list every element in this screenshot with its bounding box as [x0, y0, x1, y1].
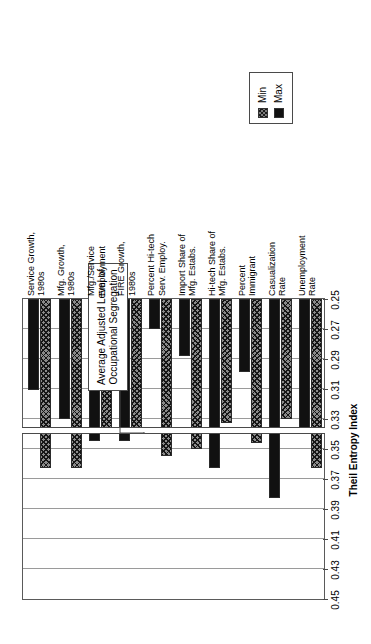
plot-area	[22, 298, 325, 600]
axis-tick	[323, 539, 328, 540]
bar-min	[281, 299, 292, 419]
category-label: Casualization Rate	[267, 146, 288, 296]
legend-label-max: Max	[274, 84, 284, 103]
axis-tick	[323, 449, 328, 450]
bar-group	[23, 299, 53, 599]
axis-tick-label: 0.33	[330, 410, 341, 429]
axis-title: Theil Entropy Index	[348, 300, 359, 600]
bar-min	[221, 299, 232, 424]
bar-max	[149, 299, 160, 329]
category-label: Mfg./Service Employment	[86, 146, 107, 296]
category-label: FIRE Growth, 1980s	[116, 146, 137, 296]
legend-swatch-min-icon	[258, 108, 268, 118]
axis-tick-label: 0.29	[330, 350, 341, 369]
bar-min	[251, 299, 262, 443]
axis-tick	[323, 359, 328, 360]
category-label: Hi-tech Share of Mfg. Estabs.	[207, 146, 228, 296]
bar-group	[294, 299, 324, 599]
legend-label-min: Min	[258, 87, 268, 103]
bar-min	[71, 299, 82, 469]
category-label: Mfg. Growth, 1980s	[56, 146, 77, 296]
bar-max	[239, 299, 250, 373]
bar-min	[311, 299, 322, 469]
bar-group	[53, 299, 83, 599]
axis-tick	[323, 329, 328, 330]
category-label: Percent Immigrant	[237, 146, 258, 296]
axis-tick-label: 0.27	[330, 320, 341, 339]
bar-group	[204, 299, 234, 599]
chart-legend: Min Max	[249, 72, 293, 124]
category-label: Unemployment Rate	[297, 146, 318, 296]
bar-group	[174, 299, 204, 599]
axis-tick	[323, 479, 328, 480]
axis-tick-label: 0.41	[330, 530, 341, 549]
axis-tick-label: 0.39	[330, 500, 341, 519]
average-reference-line	[22, 427, 325, 434]
axis-tick	[323, 509, 328, 510]
legend-swatch-max-icon	[274, 108, 284, 118]
bar-min	[131, 299, 142, 433]
axis-tick-label: 0.25	[330, 290, 341, 309]
bar-max	[28, 299, 39, 391]
bar-max	[269, 299, 280, 499]
bar-max	[179, 299, 190, 356]
category-label: Import Share of Mfg. Estabs.	[177, 146, 198, 296]
axis-tick-label: 0.37	[330, 470, 341, 489]
axis-tick	[323, 299, 328, 300]
axis-tick	[323, 389, 328, 390]
axis-tick-label: 0.43	[330, 560, 341, 579]
bar-group	[143, 299, 173, 599]
category-label: Service Growth, 1980s	[26, 146, 47, 296]
axis-tick	[323, 419, 328, 420]
legend-item-max: Max	[274, 78, 284, 118]
axis-tick-label: 0.35	[330, 440, 341, 459]
bar-max	[209, 299, 220, 469]
bar-group	[264, 299, 294, 599]
chart-stage: Min Max Average Adjusted Level of Occupa…	[0, 0, 371, 644]
axis-tick	[323, 599, 328, 600]
axis-tick-label: 0.45	[330, 590, 341, 609]
axis-tick-label: 0.31	[330, 380, 341, 399]
axis-tick	[323, 569, 328, 570]
legend-item-min: Min	[258, 78, 268, 118]
category-label: Percent Hi-tech Serv. Employ.	[146, 146, 167, 296]
bar-group	[234, 299, 264, 599]
bar-min	[40, 299, 51, 469]
bar-max	[299, 299, 310, 430]
bar-max	[59, 299, 70, 419]
